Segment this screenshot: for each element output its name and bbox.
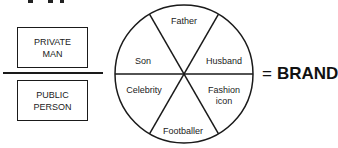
segment-footballer: Footballer <box>163 126 203 136</box>
segment-celebrity: Celebrity <box>126 85 162 95</box>
segment-fashion-icon: Fashion <box>208 85 240 95</box>
segment-husband: Husband <box>206 56 242 66</box>
brand-result: =BRAND <box>262 64 338 84</box>
brand-label: BRAND <box>277 64 338 83</box>
equals-sign: = <box>262 64 272 83</box>
segment-son: Son <box>135 56 151 66</box>
segment-father: Father <box>171 16 197 26</box>
segment-fashion-icon-line2: icon <box>216 96 233 106</box>
